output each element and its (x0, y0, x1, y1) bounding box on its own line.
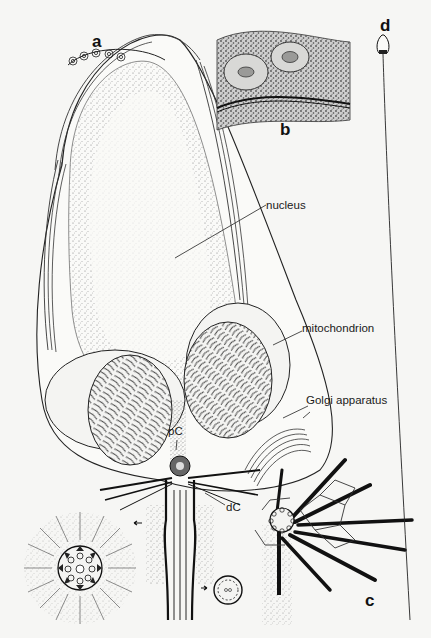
figure-canvas: a b c d nucleus mitochondrion Golgi appa… (0, 0, 431, 638)
label-golgi-apparatus: Golgi apparatus (306, 395, 387, 407)
panel-label-a: a (92, 33, 101, 50)
label-mitochondrion: mitochondrion (302, 323, 374, 335)
label-nucleus: nucleus (266, 200, 306, 212)
panel-label-c: c (365, 592, 374, 609)
mitochondrion-left-cristae (88, 355, 172, 465)
label-proximal-centriole: pC (168, 426, 183, 438)
panel-b-tissue-section (217, 31, 350, 130)
illustration-svg (0, 0, 431, 638)
panel-label-d: d (380, 17, 390, 34)
panel-label-b: b (280, 121, 290, 138)
mitochondrion-right-cristae (184, 322, 272, 438)
panel-d-whole-sperm (377, 35, 410, 620)
arrow-indicator (134, 521, 142, 525)
label-distal-centriole: dC (226, 502, 241, 514)
cross-section-radial (24, 512, 142, 624)
